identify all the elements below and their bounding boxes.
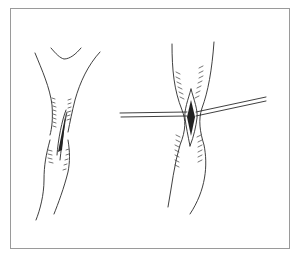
right-vessel-drawing [120, 42, 266, 214]
left-vessel-drawing [35, 48, 100, 220]
surgical-illustration [0, 0, 296, 258]
